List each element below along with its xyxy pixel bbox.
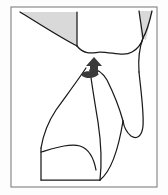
figure-container: [0, 0, 168, 195]
outer-frame: [11, 7, 157, 187]
contour-drawing-svg: [0, 0, 168, 195]
